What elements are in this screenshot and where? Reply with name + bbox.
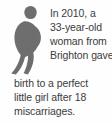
pregnant-woman-silhouette-icon: [8, 5, 48, 75]
factoid-line: birth to a perfect: [14, 76, 110, 90]
factoid-text-full-width: birth to a perfect little girl after 18 …: [2, 75, 110, 118]
factoid-line: little girl after 18: [14, 90, 110, 104]
factoid-card: In 2010, a 33-year-old woman from Bright…: [0, 0, 112, 124]
factoid-line: miscarriages.: [14, 104, 110, 118]
